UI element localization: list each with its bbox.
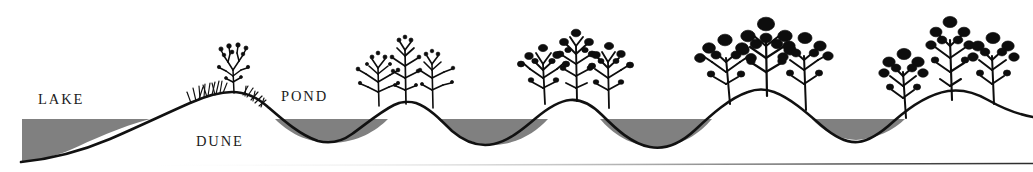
label-lake: LAKE (38, 91, 84, 107)
dune-succession-figure: LAKE DUNE POND (0, 0, 1033, 172)
lake-water (22, 119, 150, 161)
label-pond: POND (281, 88, 328, 104)
ridge-5-trees (879, 16, 1019, 118)
pond-3-water (600, 119, 712, 147)
pond-1-water (275, 119, 388, 143)
ridge-2-trees (356, 35, 455, 108)
cross-section-drawing: LAKE DUNE POND (0, 0, 1033, 172)
ridge-4-trees (695, 17, 834, 110)
dune-beachgrass (187, 81, 266, 107)
ridge-3-trees (517, 29, 633, 108)
dune-pioneer-shrub (217, 43, 249, 93)
bottom-rule (120, 164, 1033, 166)
label-dune: DUNE (196, 133, 244, 149)
